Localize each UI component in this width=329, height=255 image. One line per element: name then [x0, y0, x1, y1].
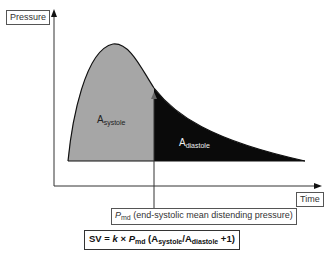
pmd-sub: md [121, 214, 131, 221]
formula-a2-sub: diastole [192, 238, 218, 245]
formula-times: × [118, 233, 129, 244]
formula-close: +1) [218, 233, 235, 244]
diastole-label-base: A [179, 137, 186, 148]
stroke-volume-formula: SV = k × Pmd (Asystole/Adiastole +1) [84, 230, 240, 250]
diastole-area-label: Adiastole [179, 137, 210, 152]
systole-area [68, 44, 154, 161]
systole-label-sub: systole [104, 119, 126, 126]
systole-area-label: Asystole [97, 114, 125, 129]
pmd-description: (end-systolic mean distending pressure) [133, 210, 293, 220]
y-axis-arrow-icon [51, 9, 57, 17]
diastole-area [154, 88, 305, 161]
diastole-label-sub: diastole [186, 142, 210, 149]
systole-label-base: A [97, 114, 104, 125]
x-axis-arrow-icon [314, 183, 322, 189]
formula-open: (A [145, 233, 158, 244]
pmd-label: Pmd (end-systolic mean distending pressu… [111, 208, 297, 225]
formula-slash: /A [182, 233, 192, 244]
formula-p-sub: md [135, 238, 146, 245]
formula-lhs: SV = [89, 233, 113, 244]
x-axis-label: Time [296, 192, 324, 207]
formula-a1-sub: systole [158, 238, 182, 245]
y-axis-label: Pressure [6, 10, 50, 25]
